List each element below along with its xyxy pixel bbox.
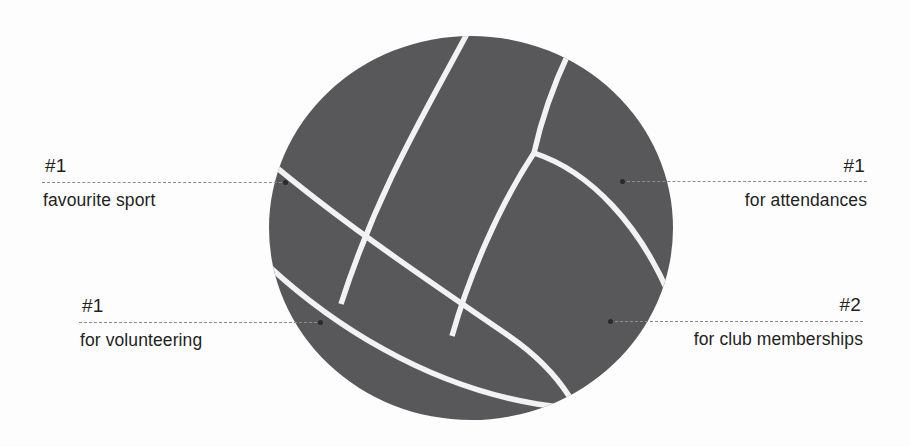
callout-description: favourite sport (43, 179, 305, 213)
callout-rank: #2 (598, 294, 863, 318)
callout-volunteering: #1 for volunteering (80, 295, 342, 353)
leader-dot-volunteering (318, 320, 323, 325)
callout-rank: #1 (80, 295, 342, 319)
leader-line-favourite-sport (42, 182, 287, 184)
callout-memberships: #2 for club memberships (598, 294, 863, 352)
infographic-canvas: #1 favourite sport #1 for attendances #1… (0, 0, 910, 447)
callout-favourite-sport: #1 favourite sport (43, 155, 305, 213)
callout-rank: #1 (605, 155, 867, 179)
callout-description: for club memberships (598, 318, 863, 352)
callout-description: for attendances (605, 179, 867, 213)
leader-dot-favourite-sport (283, 180, 288, 185)
volleyball-icon (269, 36, 673, 420)
ball-body (269, 36, 673, 420)
callout-attendances: #1 for attendances (605, 155, 867, 213)
callout-rank: #1 (43, 155, 305, 179)
volleyball-graphic (269, 36, 673, 420)
leader-line-memberships (610, 321, 863, 323)
leader-line-volunteering (79, 322, 322, 324)
leader-dot-memberships (608, 319, 613, 324)
leader-line-attendances (622, 181, 867, 183)
callout-description: for volunteering (80, 319, 342, 353)
leader-dot-attendances (620, 179, 625, 184)
